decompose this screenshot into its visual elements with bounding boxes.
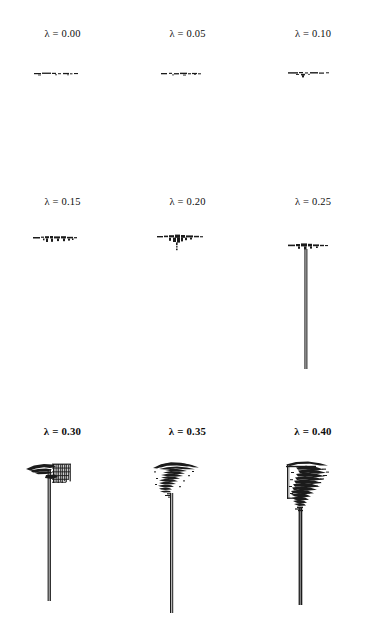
plot-panel-lambda-030: λ = 0.30 bbox=[0, 425, 125, 617]
growth-structure-lambda-030 bbox=[0, 451, 125, 617]
plot-panel-lambda-020: λ = 0.20 bbox=[125, 196, 250, 418]
plot-area bbox=[125, 222, 250, 412]
panel-label: λ = 0.40 bbox=[250, 425, 376, 437]
figure-canvas: λ = 0.00 λ = 0.05 bbox=[0, 0, 376, 617]
plot-area bbox=[250, 222, 376, 412]
panel-label: λ = 0.05 bbox=[125, 28, 250, 39]
growth-structure-lambda-025 bbox=[250, 222, 376, 412]
panel-label: λ = 0.30 bbox=[0, 425, 125, 437]
plot-area bbox=[125, 451, 250, 617]
panel-label: λ = 0.35 bbox=[125, 425, 250, 437]
plot-panel-lambda-015: λ = 0.15 bbox=[0, 196, 125, 418]
plot-area bbox=[0, 222, 125, 412]
plot-panel-lambda-010: λ = 0.10 bbox=[250, 28, 376, 198]
plot-area bbox=[0, 54, 125, 194]
plot-panel-lambda-040: λ = 0.40 bbox=[250, 425, 376, 617]
growth-structure-lambda-000 bbox=[0, 54, 125, 194]
growth-structure-lambda-005 bbox=[125, 54, 250, 194]
plot-panel-lambda-025: λ = 0.25 bbox=[250, 196, 376, 418]
plot-panel-lambda-000: λ = 0.00 bbox=[0, 28, 125, 198]
panel-label: λ = 0.20 bbox=[125, 196, 250, 207]
panel-label: λ = 0.15 bbox=[0, 196, 125, 207]
plot-panel-lambda-035: λ = 0.35 bbox=[125, 425, 250, 617]
growth-structure-lambda-015 bbox=[0, 222, 125, 412]
plot-area bbox=[250, 54, 376, 194]
growth-structure-lambda-010 bbox=[250, 54, 376, 194]
growth-structure-lambda-035 bbox=[125, 451, 250, 617]
plot-area bbox=[0, 451, 125, 617]
plot-panel-lambda-005: λ = 0.05 bbox=[125, 28, 250, 198]
growth-structure-lambda-020 bbox=[125, 222, 250, 412]
panel-label: λ = 0.10 bbox=[250, 28, 376, 39]
panel-label: λ = 0.25 bbox=[250, 196, 376, 207]
plot-area bbox=[125, 54, 250, 194]
plot-area bbox=[250, 451, 376, 617]
growth-structure-lambda-040 bbox=[250, 451, 376, 617]
panel-label: λ = 0.00 bbox=[0, 28, 125, 39]
